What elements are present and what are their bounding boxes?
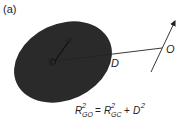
parallel-axis-equation: R 2 GO = R 2 GC + D 2: [75, 102, 145, 118]
axis-point-label: O: [166, 43, 175, 55]
eq-rhs1-sup: 2: [110, 102, 115, 109]
eq-rhs1-sub: GC: [111, 111, 122, 118]
eq-rhs2-sup: 2: [140, 102, 145, 109]
center-label: C: [47, 56, 55, 68]
parallel-axis-diagram: (a) C D O R 2 GO = R 2 GC + D 2: [0, 0, 187, 126]
eq-plus: +: [124, 105, 130, 116]
eq-lhs-sup: 2: [81, 102, 86, 109]
rigid-body-ellipse: [1, 6, 126, 118]
eq-rhs2-base: D: [133, 105, 140, 116]
eq-equals: =: [95, 105, 101, 116]
eq-lhs-sub: GO: [82, 111, 93, 118]
panel-label: (a): [3, 3, 16, 15]
distance-label: D: [111, 57, 119, 69]
